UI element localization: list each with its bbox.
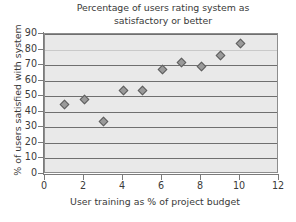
gridline-y-20 xyxy=(45,143,277,144)
gridline-y-60 xyxy=(45,81,277,82)
x-tick-label-4: 4 xyxy=(107,181,137,191)
chart-title-line-1: Percentage of users rating system as xyxy=(38,2,288,15)
gridline-y-30 xyxy=(45,127,277,128)
y-axis-line xyxy=(43,32,44,175)
gridline-y-40 xyxy=(45,112,277,113)
x-tick-label-12: 12 xyxy=(263,181,293,191)
chart-title-line-2: satisfactory or better xyxy=(38,15,288,28)
y-tick-mark-50 xyxy=(38,95,43,96)
data-point xyxy=(216,51,226,61)
x-tick-label-10: 10 xyxy=(224,181,254,191)
y-tick-mark-80 xyxy=(38,49,43,50)
data-point xyxy=(235,38,245,48)
gridline-y-10 xyxy=(45,158,277,159)
y-tick-mark-20 xyxy=(38,142,43,143)
data-point xyxy=(60,99,70,109)
y-axis-label: % of users satisfied with system xyxy=(13,20,23,180)
data-point xyxy=(99,116,109,126)
x-tick-label-6: 6 xyxy=(146,181,176,191)
y-tick-mark-0 xyxy=(38,173,43,174)
y-tick-mark-30 xyxy=(38,126,43,127)
chart-title: Percentage of users rating system as sat… xyxy=(38,2,288,27)
gridline-y-80 xyxy=(45,50,277,51)
y-tick-mark-60 xyxy=(38,80,43,81)
scatter-chart-figure: Percentage of users rating system as sat… xyxy=(0,0,296,222)
gridline-y-90 xyxy=(45,34,277,35)
plot-area xyxy=(44,33,278,173)
data-point xyxy=(138,85,148,95)
x-tick-label-2: 2 xyxy=(68,181,98,191)
gridline-y-50 xyxy=(45,96,277,97)
data-point xyxy=(196,62,206,72)
x-tick-label-0: 0 xyxy=(29,181,59,191)
data-point xyxy=(118,85,128,95)
y-tick-mark-70 xyxy=(38,64,43,65)
x-tick-label-8: 8 xyxy=(185,181,215,191)
data-point xyxy=(157,65,167,75)
y-tick-mark-10 xyxy=(38,157,43,158)
y-tick-mark-40 xyxy=(38,111,43,112)
x-axis-label: User training as % of project budget xyxy=(30,196,280,207)
y-tick-mark-90 xyxy=(38,33,43,34)
